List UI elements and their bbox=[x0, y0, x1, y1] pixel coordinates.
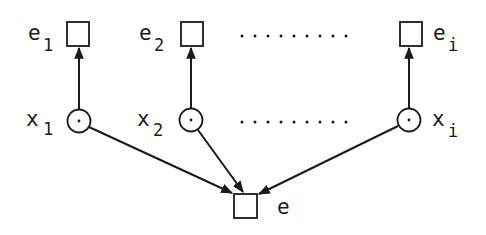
node-subscript: 1 bbox=[43, 35, 53, 55]
node-label: e bbox=[277, 195, 290, 219]
center-dot-icon bbox=[408, 119, 411, 122]
node-subscript: i bbox=[448, 35, 458, 55]
diagram-canvas: e 1 e 2 e i x 1 x 2 x i bbox=[0, 0, 486, 235]
node-subscript: 1 bbox=[43, 119, 53, 139]
node-e: e bbox=[234, 194, 290, 219]
square-node-icon bbox=[234, 194, 257, 218]
node-subscript: 2 bbox=[153, 120, 163, 140]
square-node-icon bbox=[67, 22, 89, 46]
node-subscript: i bbox=[448, 121, 458, 141]
center-dot-icon bbox=[78, 120, 81, 123]
node-e2: e 2 bbox=[139, 21, 203, 55]
node-label: x bbox=[432, 107, 445, 131]
center-dot-icon bbox=[190, 119, 193, 122]
node-x2: x 2 bbox=[137, 107, 203, 140]
edge-xi-e bbox=[259, 126, 398, 194]
node-label: e bbox=[139, 21, 152, 45]
node-label: x bbox=[26, 107, 39, 131]
node-label: e bbox=[28, 21, 41, 45]
node-label: x bbox=[137, 107, 150, 131]
node-x1: x 1 bbox=[26, 107, 91, 139]
node-xi: x i bbox=[398, 107, 459, 141]
square-node-icon bbox=[400, 22, 422, 46]
edge-x2-e bbox=[198, 130, 243, 192]
node-subscript: 2 bbox=[154, 35, 164, 55]
node-label: e bbox=[433, 21, 446, 45]
square-node-icon bbox=[181, 22, 203, 46]
